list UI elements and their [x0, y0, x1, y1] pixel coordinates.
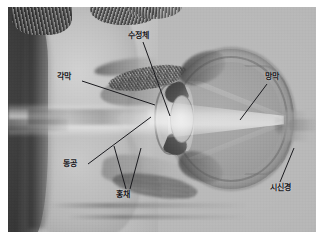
label-pupil: 동공: [63, 160, 77, 168]
hairline-edge: [28, 19, 54, 229]
crystalline-lens: [170, 95, 194, 143]
optic-nerve-core: [288, 119, 316, 131]
label-retina: 망막: [265, 73, 279, 81]
figure-root: 수정체 각막 망막 동공 홍채 시신경: [0, 0, 318, 244]
hair-strands-left: [12, 7, 72, 35]
label-cornea: 각막: [57, 73, 71, 81]
anatomy-photo-plate: [8, 7, 316, 232]
label-lens: 수정체: [128, 32, 148, 40]
label-iris: 홍채: [116, 191, 130, 199]
label-optic-nerve: 시신경: [270, 184, 290, 192]
